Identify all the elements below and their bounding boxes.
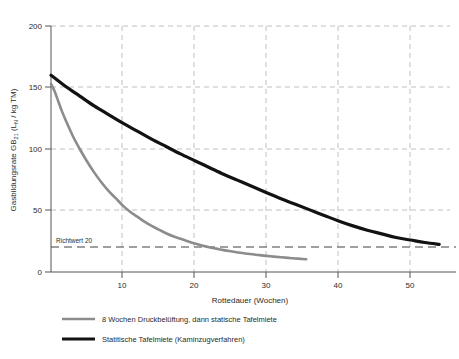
ytick-label-150: 150: [29, 83, 43, 92]
y-axis-title-tail: / kg TM): [9, 88, 18, 120]
legend-label-druckbelueftung: 8 Wochen Druckbelüftung, dann statische …: [102, 315, 277, 324]
y-axis-ticks: [45, 26, 51, 272]
y-axis-title: Gasbildungsrate GB21 (LN / kg TM): [9, 88, 19, 211]
xtick-label-10: 10: [118, 281, 127, 290]
x-axis-ticks: [122, 272, 410, 278]
ytick-label-50: 50: [33, 206, 42, 215]
xtick-label-40: 40: [334, 281, 343, 290]
xtick-label-50: 50: [406, 281, 415, 290]
ytick-label-100: 100: [29, 145, 43, 154]
x-axis-title: Rottedauer (Wochen): [212, 296, 289, 305]
gas-formation-rate-line-chart: Richtwert 20 200 150 100 50 0 10 20 30: [0, 0, 459, 359]
legend-label-statische-tafelmiete: Statitische Tafelmiete (Kaminzugverfahre…: [102, 335, 245, 344]
y-axis-title-main: Gasbildungsrate GB: [9, 139, 18, 211]
chart-legend: 8 Wochen Druckbelüftung, dann statische …: [62, 315, 277, 344]
richtwert-annotation-label: Richtwert 20: [56, 237, 93, 244]
xtick-label-20: 20: [190, 281, 199, 290]
chart-figure: Richtwert 20 200 150 100 50 0 10 20 30: [0, 0, 459, 359]
ytick-label-200: 200: [29, 22, 43, 31]
xtick-label-30: 30: [262, 281, 271, 290]
ytick-label-0: 0: [38, 268, 43, 277]
